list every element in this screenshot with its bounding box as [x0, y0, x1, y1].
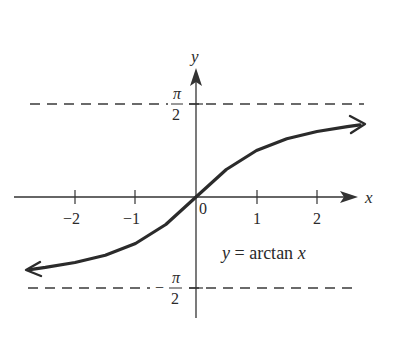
- origin-label: 0: [199, 200, 207, 217]
- pi-over-2-numerator: π: [173, 85, 182, 102]
- x-tick-label: −1: [123, 210, 140, 227]
- x-tick-label: 2: [313, 210, 321, 227]
- y-axis-label: y: [189, 47, 199, 66]
- arctan-plot: y x −2 −1 0 1 2 π 2 − π 2 y = arctan x: [0, 0, 400, 338]
- neg-pi-over-2-numerator: π: [172, 269, 181, 286]
- neg-pi-over-2-denominator: 2: [171, 290, 179, 307]
- x-tick-label: 1: [253, 210, 261, 227]
- eq-x: x: [297, 243, 306, 263]
- pi-over-2-denominator: 2: [172, 106, 180, 123]
- eq-y: y: [220, 243, 230, 263]
- x-axis-label: x: [364, 188, 373, 207]
- minus-sign: −: [155, 279, 164, 296]
- equation-label: y = arctan x: [220, 243, 306, 263]
- x-tick-label: −2: [63, 210, 80, 227]
- eq-rest: = arctan: [230, 243, 298, 263]
